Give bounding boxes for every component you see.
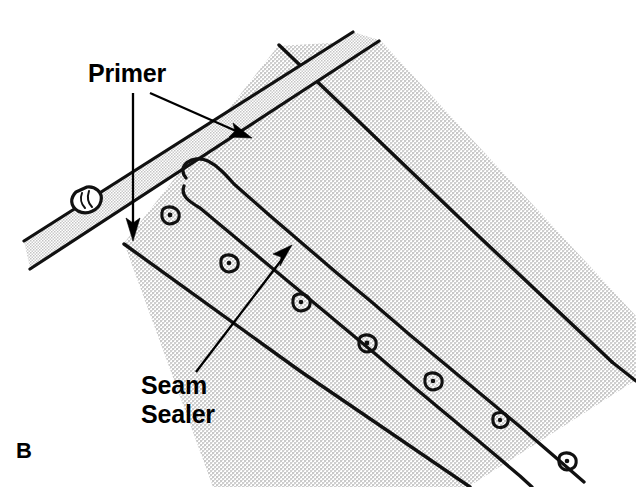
- technical-illustration: Primer Seam Sealer B: [0, 0, 636, 487]
- flange-end-cap: [72, 187, 102, 213]
- figure-marker: B: [16, 438, 32, 463]
- flange-end-cap-fill: [72, 187, 102, 213]
- seam-sealer-label-line1: Seam: [141, 371, 207, 399]
- figure-container: Primer Seam Sealer B: [0, 0, 636, 487]
- seam-sealer-label-line2: Sealer: [141, 400, 215, 428]
- primer-arrow-diagonal-shaft: [150, 93, 236, 131]
- primer-label: Primer: [88, 59, 166, 87]
